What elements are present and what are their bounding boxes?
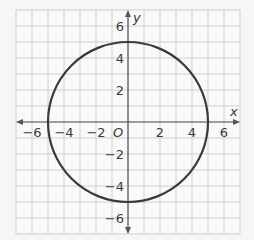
y-tick-label: −2 [105,147,124,162]
y-axis-label: y [132,10,141,25]
origin-label: O [113,125,123,140]
x-tick-label: −2 [86,125,105,140]
y-tick-label: 6 [116,19,124,34]
y-tick-label: −4 [105,179,124,194]
y-tick-label: 4 [116,51,124,66]
x-axis-label: x [229,104,238,119]
y-tick-label: 2 [116,83,124,98]
x-tick-label: 6 [220,125,228,140]
coordinate-graph: −6−4−2246642−2−4−6 x y O [0,0,254,240]
x-tick-label: −4 [54,125,73,140]
x-tick-label: −6 [22,125,41,140]
x-tick-label: 2 [156,125,164,140]
y-tick-label: −6 [105,211,124,226]
x-tick-label: 4 [188,125,196,140]
